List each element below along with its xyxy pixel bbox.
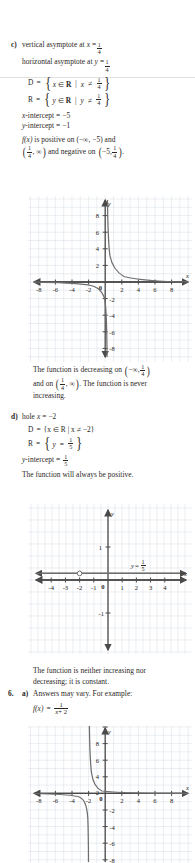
graph-d-annotation: y = 1 5: [131, 559, 146, 572]
fraction-numerator: 1: [140, 364, 145, 371]
part-c-range: R = { y ∈ R | y ≠ 1 4 }: [28, 93, 192, 106]
vertical-asymptote-text: vertical asymptote at: [22, 40, 85, 51]
behaviour-text-1: The function is decreasing on: [33, 365, 122, 376]
fraction-denominator: 4: [97, 84, 102, 90]
horizontal-asymptote-fraction: 1 4: [105, 59, 110, 72]
x-tick-label: -4: [48, 584, 54, 591]
graph-background: [28, 504, 192, 654]
x-tick-label: -1: [91, 584, 97, 591]
x-tick-label: -3: [63, 584, 69, 591]
sign-text-2: and negative on: [48, 147, 96, 158]
range-variable: y: [52, 96, 55, 105]
fraction-numerator: 1: [60, 377, 65, 384]
item-6a-function: f (x) = 1 x+ 2: [33, 702, 193, 716]
x-axis-label: x: [185, 784, 189, 791]
part-c-line-horizontal-asymptote: horizontal asymptote at y = 1 4: [22, 57, 192, 72]
part-c-x-intercept: x-intercept = −5: [22, 111, 192, 122]
domain-variable-2: x: [81, 79, 84, 88]
function-fraction: 1 x+ 2: [54, 702, 68, 716]
range-variable-2: y: [80, 96, 83, 105]
y-tick-label: -2: [109, 807, 115, 814]
graph-part-c-svg: -8 -6 -4 -2 2 4 6 8 8 6 4 2 -2 -4 -6 -8 …: [28, 196, 192, 362]
horizontal-asymptote-text: horizontal asymptote at: [22, 57, 93, 68]
y-tick-label: 1: [99, 544, 102, 551]
x-tick-label: -6: [53, 286, 59, 293]
part-d-positive-text: The function will always be positive.: [22, 470, 192, 481]
graph-item-6a: -8 -6 -4 -2 2 4 6 8 8 6 4 2 -2 -4 -6 -8 …: [28, 726, 192, 863]
range-fraction: 1 5: [68, 437, 73, 450]
part-c-domain: D = { x ∈ R | x ≠ 1 4 }: [28, 77, 192, 90]
part-d-label: d): [11, 412, 22, 423]
fraction-denominator: 4: [97, 49, 102, 55]
y-tick-label: -1: [99, 610, 105, 617]
x-tick-label: 1: [121, 584, 124, 591]
vertical-asymptote-var: x: [87, 40, 90, 51]
part-d-domain: D = {x ∈ R | x ≠ −2}: [28, 425, 192, 436]
domain-such-that: |: [75, 79, 77, 88]
fraction-numerator: 1: [112, 145, 117, 152]
denominator-rest: + 2: [58, 708, 67, 715]
part-c-label: c): [11, 40, 22, 51]
sign-interval-mid: , ∞: [33, 147, 42, 158]
hole-marker: [77, 571, 82, 576]
domain-fraction: 1 4: [97, 77, 102, 90]
graph-background: [28, 196, 192, 362]
horizontal-asymptote-var: y: [95, 57, 98, 68]
behaviour-line-2: decreasing; it is constant.: [33, 677, 193, 688]
vertical-asymptote-eq: =: [92, 40, 96, 51]
y-intercept-value: -intercept = −1: [25, 121, 70, 130]
x-tick-label: -2: [86, 797, 92, 804]
item-6a-text: Answers may vary. For example:: [33, 689, 132, 700]
part-c-y-intercept: y-intercept = −1: [22, 121, 192, 132]
range-variable: y: [52, 440, 55, 449]
y-tick-label: -6: [109, 840, 115, 847]
sign-period: .: [122, 147, 124, 158]
fraction-denominator: 4: [105, 67, 110, 73]
fraction-denominator: 4: [96, 100, 101, 106]
part-c-block: c) vertical asymptote at x = 1 4 horizon…: [22, 40, 192, 159]
function-equals: =: [46, 704, 50, 715]
fraction-denominator: 4: [60, 385, 65, 391]
x-tick-label: 2: [120, 286, 123, 293]
behaviour-interval-2-mid: , ∞: [66, 379, 75, 390]
fraction-denominator: 4: [27, 153, 32, 159]
item-6-block: 6. a) Answers may vary. For example: f (…: [8, 689, 193, 716]
item-6a-label: a): [22, 689, 33, 700]
fraction-numerator: 1: [97, 77, 102, 84]
domain-label: D: [28, 78, 33, 89]
part-c-sign-line-2: ( 1 4 , ∞ ) and negative on ( −5, 1 4 ) …: [22, 145, 192, 158]
x-axis-label: x: [185, 272, 189, 279]
fraction-numerator: 1: [141, 559, 146, 566]
range-such-that: |: [75, 96, 77, 105]
behaviour-line-3: increasing.: [33, 391, 193, 402]
range-real-set: R: [66, 96, 71, 105]
domain-variable: x: [53, 79, 56, 88]
domain-element-of: ∈: [58, 79, 64, 88]
domain-not-equal: ≠: [88, 79, 92, 88]
part-d-block: d) hole x = −2 D = {x ∈ R | x ≠ −2} R = …: [22, 412, 192, 481]
behaviour-text-2: and on: [33, 379, 53, 390]
part-d-range: R = { y = 1 5 }: [28, 437, 192, 450]
x-intercept-value: -intercept = −5: [25, 111, 70, 120]
behaviour-interval-1-fraction: 1 4: [140, 364, 145, 377]
part-d-y-intercept: y-intercept = 1 5: [22, 454, 192, 467]
y-tick-label: -4: [109, 312, 115, 319]
domain-set-notation: {x ∈ R | x ≠ −2}: [44, 425, 95, 436]
fraction-numerator: 1: [105, 59, 110, 66]
domain-equals: =: [36, 78, 40, 89]
fraction-numerator: 1: [96, 93, 101, 100]
x-tick-label: 2: [120, 797, 123, 804]
x-tick-label: -2: [77, 584, 83, 591]
annotation-y: y: [131, 562, 134, 570]
hole-var: x: [37, 412, 40, 423]
hole-text: hole: [22, 412, 35, 423]
x-tick-label: -2: [86, 286, 92, 293]
y-tick-label: 2: [96, 262, 99, 269]
range-equals-2: =: [60, 440, 64, 449]
graph-part-d-svg: -4 -3 -2 -1 1 2 3 4 1 -1 0 x y: [28, 504, 192, 654]
range-label: R: [28, 439, 33, 450]
vertical-asymptote-fraction: 1 4: [97, 42, 102, 55]
x-tick-label: -4: [69, 797, 75, 804]
part-c-behaviour-block: The function is decreasing on ( −∞, 1 4 …: [33, 364, 193, 401]
fraction-numerator: 1: [97, 42, 102, 49]
